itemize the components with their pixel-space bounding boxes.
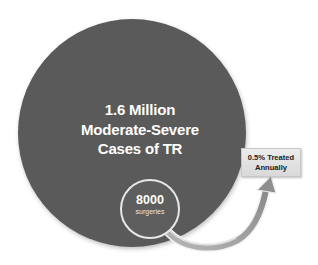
treated-frequency: Annually bbox=[255, 163, 287, 173]
severity-label: Moderate-Severe bbox=[40, 120, 240, 140]
population-label: 1.6 Million Moderate-Severe Cases of TR bbox=[40, 100, 240, 159]
surgeries-count: 8000 bbox=[120, 193, 180, 207]
treated-callout-box: 0.5% Treated Annually bbox=[241, 148, 301, 177]
population-count: 1.6 Million bbox=[40, 100, 240, 120]
surgeries-unit: surgeries bbox=[120, 207, 180, 217]
surgeries-label: 8000 surgeries bbox=[120, 193, 180, 217]
condition-label: Cases of TR bbox=[40, 139, 240, 159]
treated-percent: 0.5% Treated bbox=[248, 153, 294, 163]
